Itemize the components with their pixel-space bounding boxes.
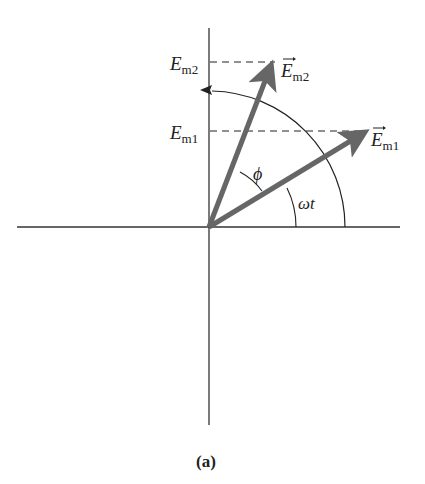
- omega-t-arc: [287, 188, 296, 227]
- phasor-diagram: Em2 Em1 Em2 Em1 ϕ ωt (a): [0, 0, 425, 484]
- axis-label-em1: Em1: [169, 122, 198, 146]
- rotation-arrowhead-icon: [200, 85, 212, 95]
- phi-label: ϕ: [253, 164, 262, 184]
- svg-text:Em2: Em2: [280, 60, 309, 84]
- omega-t-label: ωt: [298, 194, 316, 213]
- axis-label-em2: Em2: [169, 53, 198, 77]
- svg-text:Em1: Em1: [370, 129, 399, 153]
- phasor-label-em1: Em1: [370, 126, 399, 153]
- phasor-label-em2: Em2: [280, 57, 309, 84]
- phasor-em1-arrow: [209, 134, 362, 227]
- figure-caption: (a): [196, 452, 216, 471]
